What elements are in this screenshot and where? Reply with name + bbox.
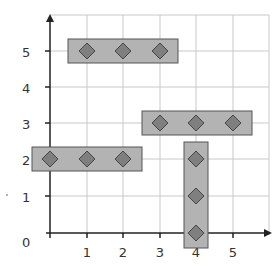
x-label-3: 3 bbox=[156, 245, 164, 260]
stray-dot bbox=[6, 194, 8, 196]
y-label-1: 1 bbox=[22, 190, 30, 205]
x-label-5: 5 bbox=[229, 245, 237, 260]
x-tick-labels: 1 2 3 4 5 bbox=[83, 245, 237, 260]
y-tick-labels: 5 4 3 2 1 0 bbox=[22, 45, 30, 250]
x-label-1: 1 bbox=[83, 245, 91, 260]
x-label-2: 2 bbox=[119, 245, 127, 260]
bars bbox=[32, 39, 252, 248]
diamond-markers bbox=[42, 43, 241, 241]
y-label-3: 3 bbox=[22, 117, 30, 132]
coordinate-grid-diagram: 5 4 3 2 1 0 1 2 3 4 5 bbox=[0, 0, 279, 271]
origin-label: 0 bbox=[22, 235, 30, 250]
y-label-2: 2 bbox=[22, 153, 30, 168]
y-label-5: 5 bbox=[22, 45, 30, 60]
y-label-4: 4 bbox=[22, 81, 30, 96]
x-axis-arrow-icon bbox=[264, 229, 272, 237]
